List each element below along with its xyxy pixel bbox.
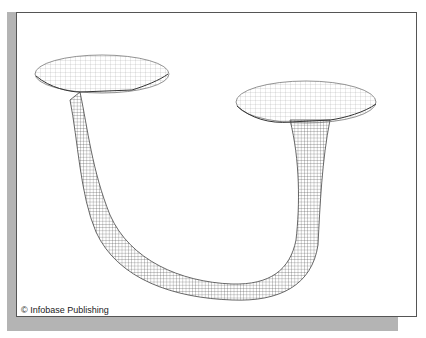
right-funnel-mouth bbox=[236, 81, 376, 123]
wormhole-wireframe bbox=[0, 0, 426, 338]
copyright-credit: © Infobase Publishing bbox=[21, 305, 109, 315]
left-funnel-mouth bbox=[35, 55, 169, 93]
wormhole-tube bbox=[70, 92, 330, 300]
